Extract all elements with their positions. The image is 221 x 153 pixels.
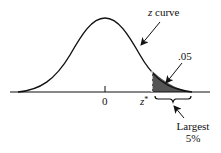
diagram-canvas: z curve .05 0 z* Largest 5% xyxy=(0,0,221,153)
z-curve-diagram: z curve .05 0 z* Largest 5% xyxy=(0,0,221,153)
shaded-tail-region xyxy=(152,71,191,92)
tail-area-label: .05 xyxy=(178,50,192,62)
tail-brace xyxy=(155,96,191,102)
normal-curve xyxy=(18,18,192,92)
brace-label-arrow xyxy=(174,106,184,118)
brace-label-line1: Largest xyxy=(177,120,210,132)
center-tick-label: 0 xyxy=(102,95,108,107)
curve-label: z curve xyxy=(147,6,180,18)
curve-label-arrow xyxy=(141,22,160,45)
tail-area-arrow xyxy=(166,63,182,83)
brace-label-line2: 5% xyxy=(186,132,201,144)
critical-value-label: z* xyxy=(139,95,148,107)
